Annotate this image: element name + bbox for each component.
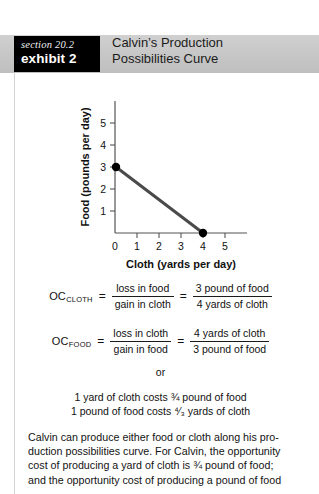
x-tick-label-2: 2: [156, 240, 162, 252]
data-point-marker-cloth-intercept: [199, 229, 207, 237]
caption-line-2: duction possibilities curve. For Calvin,…: [28, 444, 296, 458]
caption-line-4: and the opportunity cost of producing a …: [28, 473, 296, 487]
x-axis-title: Cloth (yards per day): [126, 258, 236, 270]
oc-food-fraction-1: loss in cloth gain in food: [110, 328, 171, 354]
cost-statement-food: 1 pound of food costs ⁴⁄₃ yards of cloth: [15, 404, 305, 418]
formula-oc-cloth: OCCLOTH = loss in food gain in cloth = 3…: [15, 276, 305, 316]
oc-food-equals-2: =: [176, 334, 185, 348]
x-tick-label-1: 1: [134, 240, 140, 252]
or-divider-word: or: [15, 366, 305, 378]
exhibit-page: section 20.2 exhibit 2 Calvin’s Producti…: [0, 0, 319, 494]
oc-cloth-equals-2: =: [179, 289, 188, 303]
x-tick-label-5: 5: [222, 240, 228, 252]
oc-cloth-equals-1: =: [98, 289, 107, 303]
cost-statements: 1 yard of cloth costs ¾ pound of food 1 …: [15, 390, 305, 418]
exhibit-title: Calvin’s Production Possibilities Curve: [112, 35, 312, 67]
caption-line-3: cost of producing a yard of cloth is ¾ p…: [28, 458, 296, 472]
oc-cloth-fraction-1-numerator: loss in food: [112, 283, 174, 297]
ppc-curve-line: [116, 167, 203, 233]
y-axis-tick-labels: 1 2 3 4 5: [100, 117, 106, 217]
oc-food-fraction-2-denominator: 3 pound of food: [190, 342, 269, 355]
y-tick-label-3: 3: [100, 161, 106, 173]
y-tick-label-5: 5: [100, 117, 106, 129]
cost-statement-cloth: 1 yard of cloth costs ¾ pound of food: [15, 390, 305, 404]
section-label: section 20.2: [21, 38, 100, 51]
exhibit-content-card: 1 2 3 4 5 0 1 2 3: [14, 73, 305, 494]
exhibit-caption: Calvin can produce either food or cloth …: [28, 430, 296, 487]
formula-oc-food: OCFOOD = loss in cloth gain in food = 4 …: [15, 321, 305, 361]
oc-food-fraction-2-numerator: 4 yards of cloth: [190, 328, 269, 342]
y-tick-label-2: 2: [100, 183, 106, 195]
oc-cloth-symbol: OC: [49, 290, 66, 302]
data-point-marker-food-intercept: [112, 163, 120, 171]
chart-svg: 1 2 3 4 5 0 1 2 3: [15, 91, 305, 273]
oc-food-fraction-2: 4 yards of cloth 3 pound of food: [190, 328, 269, 354]
oc-cloth-label: OCCLOTH: [49, 290, 92, 302]
oc-cloth-fraction-2-numerator: 3 pound of food: [193, 283, 272, 297]
oc-food-label: OCFOOD: [52, 335, 91, 347]
oc-food-symbol: OC: [52, 335, 69, 347]
y-tick-label-1: 1: [100, 205, 106, 217]
x-tick-label-3: 3: [178, 240, 184, 252]
caption-line-1: Calvin can produce either food or cloth …: [28, 430, 296, 444]
x-tick-label-0: 0: [112, 240, 118, 252]
oc-cloth-fraction-2: 3 pound of food 4 yards of cloth: [193, 283, 272, 309]
x-axis-tick-labels: 0 1 2 3 4 5: [112, 240, 228, 252]
y-axis-title: Food (pounds per day): [79, 107, 91, 226]
oc-food-equals-1: =: [96, 334, 105, 348]
oc-food-fraction-1-numerator: loss in cloth: [110, 328, 171, 342]
oc-cloth-fraction-1: loss in food gain in cloth: [112, 283, 174, 309]
oc-cloth-fraction-1-denominator: gain in cloth: [112, 297, 174, 310]
exhibit-label: exhibit 2: [21, 51, 100, 67]
y-tick-label-4: 4: [100, 139, 106, 151]
oc-food-fraction-1-denominator: gain in food: [110, 342, 171, 355]
exhibit-title-line-2: Possibilities Curve: [112, 51, 312, 67]
exhibit-tag: section 20.2 exhibit 2: [14, 36, 100, 72]
oc-cloth-subscript: CLOTH: [66, 295, 92, 304]
exhibit-title-line-1: Calvin’s Production: [112, 35, 312, 51]
oc-food-subscript: FOOD: [69, 340, 91, 349]
ppc-chart: 1 2 3 4 5 0 1 2 3: [15, 91, 305, 273]
x-axis-ticks: [137, 233, 225, 238]
oc-cloth-fraction-2-denominator: 4 yards of cloth: [193, 297, 272, 310]
x-tick-label-4: 4: [200, 240, 206, 252]
